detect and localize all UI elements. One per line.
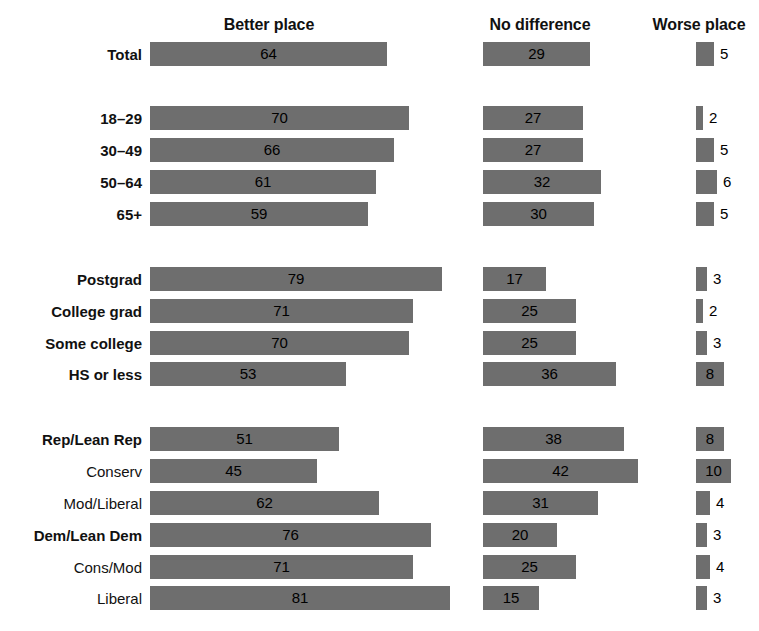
bar-better: 61 xyxy=(150,170,376,194)
bar-value-label: 38 xyxy=(483,427,624,451)
bar-worse: 3 xyxy=(696,586,707,610)
bar-better: 66 xyxy=(150,138,394,162)
bar-value-label: 71 xyxy=(150,299,413,323)
bar-worse: 3 xyxy=(696,331,707,355)
row-label: Cons/Mod xyxy=(0,557,142,578)
bar-nodiff: 27 xyxy=(483,106,583,130)
bar-value-label: 8 xyxy=(696,362,724,386)
bar-value-label: 5 xyxy=(714,138,728,162)
bar-nodiff: 25 xyxy=(483,299,576,323)
bar-value-label: 42 xyxy=(483,459,638,483)
column-header-better-place: Better place xyxy=(150,16,388,34)
bar-better: 62 xyxy=(150,491,379,515)
bar-value-label: 36 xyxy=(483,362,616,386)
bar-value-label: 30 xyxy=(483,202,594,226)
bar-value-label: 17 xyxy=(483,267,546,291)
bar-better: 51 xyxy=(150,427,339,451)
row-label: 30–49 xyxy=(0,140,142,161)
bar-nodiff: 27 xyxy=(483,138,583,162)
bar-worse: 5 xyxy=(696,202,714,226)
bar-value-label: 3 xyxy=(707,523,721,547)
bar-worse: 3 xyxy=(696,523,707,547)
chart-row: 50–6461326 xyxy=(0,170,759,194)
bar-value-label: 20 xyxy=(483,523,557,547)
bar-value-label: 66 xyxy=(150,138,394,162)
bar-value-label: 25 xyxy=(483,555,576,579)
chart-row: HS or less53368 xyxy=(0,362,759,386)
bar-better: 70 xyxy=(150,106,409,130)
bar-nodiff: 31 xyxy=(483,491,598,515)
chart-row: Liberal81153 xyxy=(0,586,759,610)
bar-value-label: 45 xyxy=(150,459,317,483)
bar-value-label: 8 xyxy=(696,427,724,451)
chart-container: Better place No difference Worse place T… xyxy=(0,0,759,631)
bar-worse: 4 xyxy=(696,555,710,579)
chart-row: Dem/Lean Dem76203 xyxy=(0,523,759,547)
row-label: Liberal xyxy=(0,588,142,609)
bar-better: 59 xyxy=(150,202,368,226)
bar-worse: 5 xyxy=(696,42,714,66)
bar-worse: 8 xyxy=(696,427,724,451)
bar-value-label: 59 xyxy=(150,202,368,226)
bar-value-label: 10 xyxy=(696,459,731,483)
bar-worse: 4 xyxy=(696,491,710,515)
row-label: Rep/Lean Rep xyxy=(0,429,142,450)
bar-worse: 3 xyxy=(696,267,707,291)
bar-better: 71 xyxy=(150,299,413,323)
chart-row: 65+59305 xyxy=(0,202,759,226)
chart-row: 18–2970272 xyxy=(0,106,759,130)
bar-value-label: 5 xyxy=(714,202,728,226)
bar-worse: 2 xyxy=(696,106,703,130)
bar-better: 53 xyxy=(150,362,346,386)
chart-row: Some college70253 xyxy=(0,331,759,355)
chart-row: Mod/Liberal62314 xyxy=(0,491,759,515)
row-label: 65+ xyxy=(0,204,142,225)
chart-row: Cons/Mod71254 xyxy=(0,555,759,579)
row-label: 18–29 xyxy=(0,108,142,129)
bar-value-label: 4 xyxy=(710,491,724,515)
bar-value-label: 3 xyxy=(707,267,721,291)
bar-value-label: 79 xyxy=(150,267,442,291)
row-label: Total xyxy=(0,44,142,65)
bar-nodiff: 15 xyxy=(483,586,539,610)
bar-better: 45 xyxy=(150,459,317,483)
bar-value-label: 53 xyxy=(150,362,346,386)
bar-value-label: 2 xyxy=(703,299,717,323)
bar-value-label: 61 xyxy=(150,170,376,194)
bar-better: 70 xyxy=(150,331,409,355)
bar-value-label: 5 xyxy=(714,42,728,66)
bar-nodiff: 25 xyxy=(483,555,576,579)
bar-better: 64 xyxy=(150,42,387,66)
bar-nodiff: 30 xyxy=(483,202,594,226)
bar-value-label: 62 xyxy=(150,491,379,515)
bar-value-label: 29 xyxy=(483,42,590,66)
bar-value-label: 32 xyxy=(483,170,601,194)
bar-nodiff: 36 xyxy=(483,362,616,386)
column-header-no-difference: No difference xyxy=(440,16,640,34)
bar-nodiff: 42 xyxy=(483,459,638,483)
bar-value-label: 71 xyxy=(150,555,413,579)
bar-value-label: 31 xyxy=(483,491,598,515)
bar-better: 76 xyxy=(150,523,431,547)
bar-value-label: 25 xyxy=(483,331,576,355)
row-label: Dem/Lean Dem xyxy=(0,525,142,546)
chart-row: Postgrad79173 xyxy=(0,267,759,291)
bar-better: 81 xyxy=(150,586,450,610)
row-label: Conserv xyxy=(0,461,142,482)
bar-value-label: 6 xyxy=(717,170,731,194)
bar-value-label: 27 xyxy=(483,138,583,162)
bar-value-label: 25 xyxy=(483,299,576,323)
bar-value-label: 2 xyxy=(703,106,717,130)
bar-nodiff: 17 xyxy=(483,267,546,291)
chart-row: Total64295 xyxy=(0,42,759,66)
bar-worse: 8 xyxy=(696,362,724,386)
bar-value-label: 15 xyxy=(483,586,539,610)
bar-worse: 10 xyxy=(696,459,731,483)
bar-value-label: 70 xyxy=(150,331,409,355)
chart-row: Conserv454210 xyxy=(0,459,759,483)
row-label: Postgrad xyxy=(0,269,142,290)
chart-row: College grad71252 xyxy=(0,299,759,323)
bar-value-label: 3 xyxy=(707,331,721,355)
row-label: 50–64 xyxy=(0,172,142,193)
bar-value-label: 64 xyxy=(150,42,387,66)
